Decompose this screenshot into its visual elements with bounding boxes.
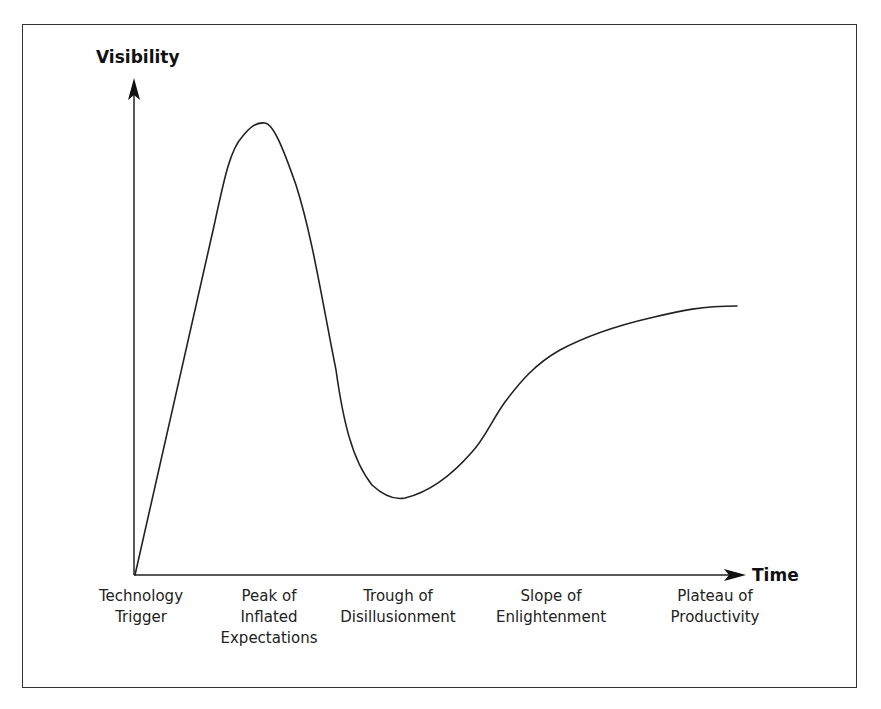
stage-label-line: Expectations	[221, 628, 318, 649]
stage-label-line: Trough of	[340, 586, 455, 607]
stage-label-line: Plateau of	[671, 586, 760, 607]
stage-label-line: Peak of	[221, 586, 318, 607]
stage-label-line: Disillusionment	[340, 607, 455, 628]
stage-label-line: Productivity	[671, 607, 760, 628]
stage-label-line: Technology	[99, 586, 183, 607]
hype-curve	[135, 123, 737, 575]
stage-label-plateau: Plateau of Productivity	[671, 586, 760, 628]
x-axis-label: Time	[752, 565, 799, 585]
stage-label-trough: Trough of Disillusionment	[340, 586, 455, 628]
stage-label-peak: Peak of Inflated Expectations	[221, 586, 318, 649]
stage-label-line: Enlightenment	[496, 607, 606, 628]
stage-label-line: Slope of	[496, 586, 606, 607]
stage-label-technology-trigger: Technology Trigger	[99, 586, 183, 628]
stage-label-line: Trigger	[99, 607, 183, 628]
stage-label-slope: Slope of Enlightenment	[496, 586, 606, 628]
stage-label-line: Inflated	[221, 607, 318, 628]
y-axis-label: Visibility	[96, 47, 180, 67]
